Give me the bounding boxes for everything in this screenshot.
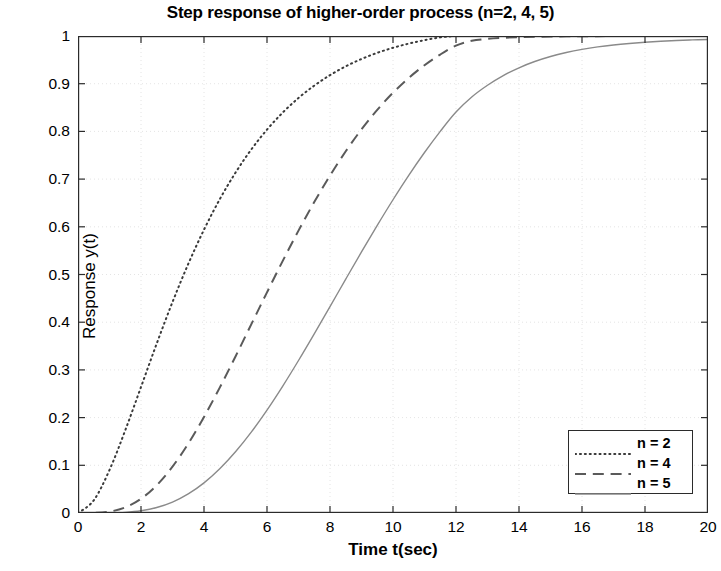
x-tick-label: 12: [431, 519, 481, 535]
figure-canvas: Step response of higher-order process (n…: [0, 0, 721, 571]
y-tick-label: 0.1: [10, 457, 70, 473]
y-tick-label: 0.6: [10, 219, 70, 235]
x-axis-tick-labels: 02468101214161820: [78, 519, 708, 541]
x-tick-label: 8: [305, 519, 355, 535]
y-tick-label: 0.9: [10, 76, 70, 92]
legend-label: n = 2: [637, 435, 670, 451]
y-axis-tick-labels: 00.10.20.30.40.50.60.70.80.91: [8, 36, 70, 513]
legend-item[interactable]: n = 2: [569, 433, 694, 453]
x-tick-label: 14: [494, 519, 544, 535]
legend-item[interactable]: n = 5: [569, 473, 694, 493]
x-tick-label: 4: [179, 519, 229, 535]
y-tick-label: 0.8: [10, 123, 70, 139]
x-tick-label: 16: [557, 519, 607, 535]
y-axis-label: Response y(t): [80, 86, 100, 486]
chart-legend: n = 2n = 4n = 5: [568, 430, 693, 494]
legend-item[interactable]: n = 4: [569, 453, 694, 473]
y-tick-label: 0.3: [10, 362, 70, 378]
x-tick-label: 2: [116, 519, 166, 535]
y-tick-label: 1: [10, 28, 70, 44]
chart-title: Step response of higher-order process (n…: [0, 3, 721, 23]
legend-label: n = 5: [637, 475, 670, 491]
x-axis-label: Time t(sec): [78, 540, 708, 560]
x-tick-label: 20: [683, 519, 721, 535]
solid-line-sample: [575, 482, 631, 484]
y-tick-label: 0.4: [10, 314, 70, 330]
dashed-line-sample: [575, 462, 631, 464]
x-tick-label: 0: [53, 519, 103, 535]
y-tick-label: 0.7: [10, 171, 70, 187]
x-tick-label: 6: [242, 519, 292, 535]
dotted-line-sample: [575, 442, 631, 444]
x-tick-label: 10: [368, 519, 418, 535]
x-tick-label: 18: [620, 519, 670, 535]
legend-label: n = 4: [637, 455, 670, 471]
y-tick-label: 0.2: [10, 410, 70, 426]
y-tick-label: 0.5: [10, 267, 70, 283]
